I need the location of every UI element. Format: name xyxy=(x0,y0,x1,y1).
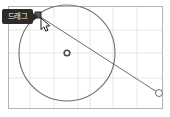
arrow-pointer-icon xyxy=(41,18,50,31)
tooltip-pointer-nub xyxy=(32,12,38,22)
drawing-surface[interactable]: 드래그 xyxy=(0,0,170,117)
drag-tooltip-label: 드래그 xyxy=(8,13,27,21)
drag-tooltip: 드래그 xyxy=(3,10,32,23)
drag-circle-screenshot: 드래그 xyxy=(0,0,170,117)
